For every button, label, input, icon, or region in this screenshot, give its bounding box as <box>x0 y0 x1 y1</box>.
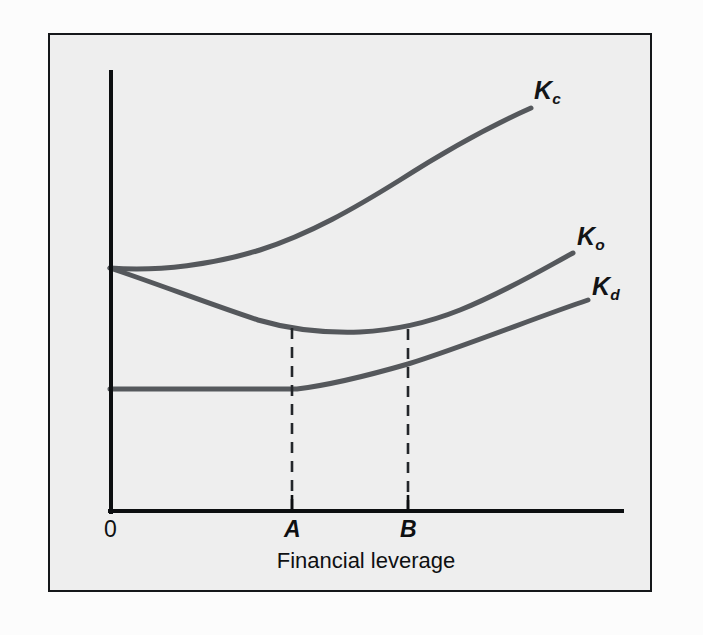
figure-root: Kc Ko Kd 0 A B Financial leverage Capita… <box>0 0 703 635</box>
x-axis-title: Financial leverage <box>110 548 622 574</box>
curve-label-kd-sub: d <box>610 286 619 303</box>
chart-frame-border <box>48 33 652 592</box>
curve-label-kd: Kd <box>592 272 620 301</box>
curve-label-kc: Kc <box>534 76 561 105</box>
curve-label-kd-k: K <box>592 272 610 300</box>
curve-label-ko-k: K <box>577 222 595 250</box>
x-tick-label-origin: 0 <box>104 516 117 543</box>
x-tick-label-b: B <box>400 516 417 543</box>
curve-label-kc-k: K <box>534 76 552 104</box>
curve-label-ko-sub: o <box>595 236 604 253</box>
curve-label-kc-sub: c <box>552 90 561 107</box>
curve-label-ko: Ko <box>577 222 605 251</box>
x-tick-label-a: A <box>284 516 301 543</box>
